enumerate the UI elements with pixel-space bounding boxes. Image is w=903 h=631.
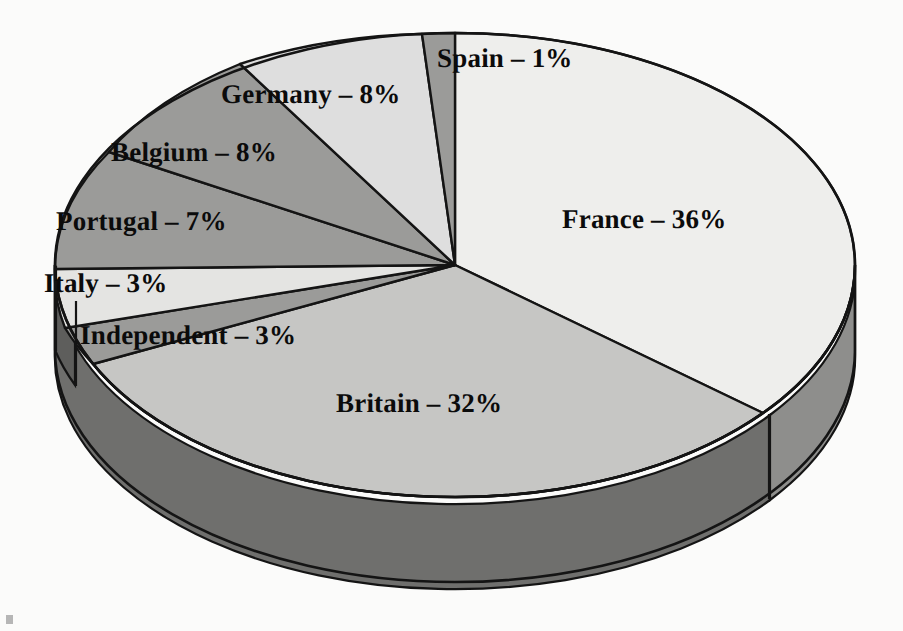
pie-label-italy: Italy – 3% <box>44 270 168 297</box>
pie-label-portugal: Portugal – 7% <box>56 208 227 235</box>
pie-chart-graphic <box>0 0 903 631</box>
pie-label-belgium: Belgium – 8% <box>111 139 277 166</box>
pie-top-face <box>55 33 855 497</box>
pie-label-britain: Britain – 32% <box>336 390 502 417</box>
pie-label-france: France – 36% <box>562 206 726 233</box>
pie-label-independent: Independent – 3% <box>80 322 296 349</box>
pie-chart-page: France – 36% Spain – 1% Germany – 8% Bel… <box>0 0 903 631</box>
pie-label-germany: Germany – 8% <box>221 81 400 108</box>
scan-artifact-speck <box>6 615 13 624</box>
pie-label-spain: Spain – 1% <box>437 45 573 72</box>
